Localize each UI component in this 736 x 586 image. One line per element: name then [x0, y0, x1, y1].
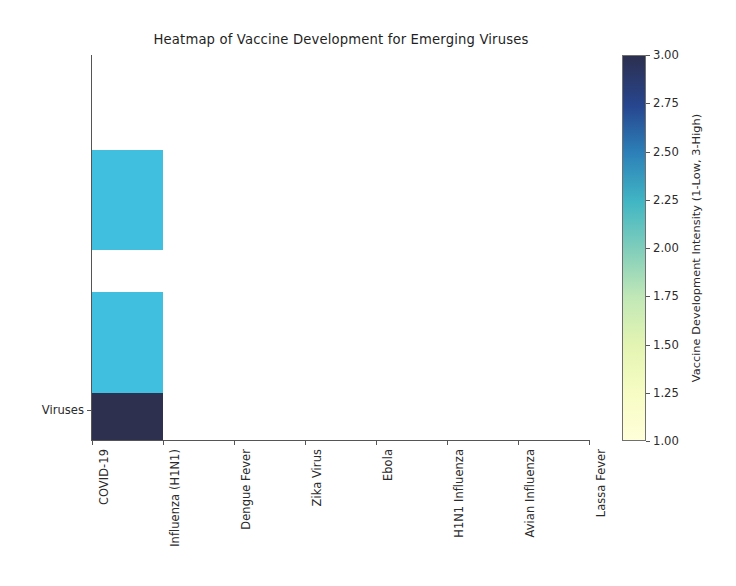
- colorbar-tick-label: 2.25: [653, 193, 679, 207]
- x-axis-tick-label-text: Avian Influenza: [523, 449, 537, 538]
- colorbar-tick-label: 1.75: [653, 289, 679, 303]
- heatmap-cell: [92, 393, 163, 440]
- colorbar-tick-mark: [646, 296, 650, 297]
- x-axis-tick-mark: [518, 441, 519, 445]
- heatmap-cell: [92, 150, 163, 250]
- colorbar-tick-mark: [646, 103, 650, 104]
- colorbar-tick-label: 2.75: [653, 96, 679, 110]
- x-axis-tick-mark: [92, 441, 93, 445]
- x-axis-tick-mark: [376, 441, 377, 445]
- x-axis-tick-mark: [589, 441, 590, 445]
- y-axis-tick-mark: [87, 410, 91, 411]
- x-axis-tick-mark: [447, 441, 448, 445]
- colorbar-tick-mark: [646, 248, 650, 249]
- colorbar: [622, 55, 646, 441]
- colorbar-tick-label: 1.00: [653, 434, 679, 448]
- x-axis-tick-label: Dengue Fever: [239, 449, 253, 530]
- x-axis-tick-label: Influenza (H1N1): [168, 449, 182, 547]
- y-axis-tick-label-wrap: Viruses: [0, 403, 84, 417]
- colorbar-tick-mark: [646, 441, 650, 442]
- x-axis-tick-label: Lassa Fever: [594, 449, 608, 517]
- colorbar-tick-mark: [646, 200, 650, 201]
- colorbar-tick-mark: [646, 152, 650, 153]
- colorbar-tick-mark: [646, 55, 650, 56]
- colorbar-tick-label: 2.00: [653, 241, 679, 255]
- x-axis-tick-label: Avian Influenza: [523, 449, 537, 538]
- x-axis-tick-label-text: H1N1 Influenza: [452, 449, 466, 538]
- x-axis-tick-mark: [163, 441, 164, 445]
- axis-spine-bottom: [91, 440, 590, 441]
- colorbar-tick-mark: [646, 345, 650, 346]
- y-axis-tick-label-viruses: Viruses: [42, 403, 84, 417]
- colorbar-tick-mark: [646, 393, 650, 394]
- colorbar-axis-label: Vaccine Development Intensity (1-Low, 3-…: [690, 114, 703, 382]
- colorbar-tick-label: 3.00: [653, 48, 679, 62]
- x-axis-tick-label-text: COVID-19: [97, 449, 111, 505]
- x-axis-tick-mark: [305, 441, 306, 445]
- x-axis-tick-label-text: Ebola: [381, 449, 395, 481]
- colorbar-tick-label: 2.50: [653, 145, 679, 159]
- x-axis-tick-label: H1N1 Influenza: [452, 449, 466, 538]
- x-axis-tick-label-text: Dengue Fever: [239, 449, 253, 530]
- x-axis-tick-label-text: Lassa Fever: [594, 449, 608, 517]
- colorbar-gradient: [622, 55, 646, 441]
- x-axis-tick-label: Zika Virus: [310, 449, 324, 507]
- heatmap-cell: [92, 292, 163, 393]
- x-axis-tick-label-text: Influenza (H1N1): [168, 449, 182, 547]
- x-axis-tick-mark: [234, 441, 235, 445]
- x-axis-tick-label: COVID-19: [97, 449, 111, 505]
- x-axis-tick-label-text: Zika Virus: [310, 449, 324, 507]
- heatmap-figure: Heatmap of Vaccine Development for Emerg…: [0, 0, 736, 586]
- heatmap-plot-area: [92, 55, 590, 440]
- colorbar-tick-label: 1.50: [653, 338, 679, 352]
- x-axis-tick-label: Ebola: [381, 449, 395, 481]
- page-title: Heatmap of Vaccine Development for Emerg…: [92, 32, 590, 47]
- colorbar-tick-label: 1.25: [653, 386, 679, 400]
